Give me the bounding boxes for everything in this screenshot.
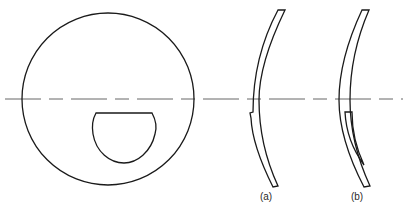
lens-section-a-outline bbox=[250, 10, 285, 187]
lens-section-b-segment bbox=[345, 112, 364, 165]
label-b: (b) bbox=[351, 191, 363, 202]
cross-section-b bbox=[339, 10, 370, 187]
lens-section-b-outline bbox=[339, 10, 370, 187]
lens-diagram: (a) (b) bbox=[0, 0, 406, 208]
label-a: (a) bbox=[260, 191, 272, 202]
cross-section-a bbox=[250, 10, 285, 187]
d-segment bbox=[92, 113, 156, 163]
